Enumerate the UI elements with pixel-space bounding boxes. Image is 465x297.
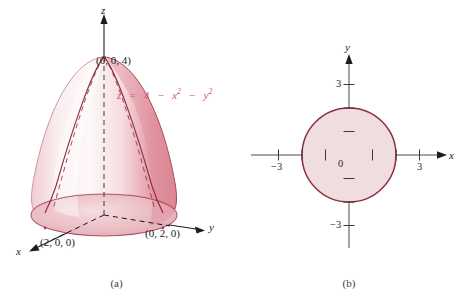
point-label-apex: (0, 0, 4) bbox=[96, 55, 131, 66]
point-label-y-intercept: (0, 2, 0) bbox=[145, 228, 180, 239]
origin-label: 0 bbox=[338, 159, 343, 170]
eq-minus-2: − bbox=[189, 89, 195, 101]
panel-b-circle: x y −3 3 3 −3 0 x2 + y2 = 4 (b) bbox=[233, 0, 465, 297]
eq-lhs: z bbox=[117, 89, 121, 101]
point-label-x-intercept: (2, 0, 0) bbox=[40, 237, 75, 248]
eq-exp-y: 2 bbox=[208, 87, 212, 96]
y-tick-label-neg3: −3 bbox=[330, 220, 341, 231]
axis-label-z: z bbox=[101, 5, 105, 16]
eq-minus-1: − bbox=[158, 89, 164, 101]
paraboloid-3d-graphic bbox=[0, 0, 233, 297]
eq-constant: 4 bbox=[144, 89, 150, 101]
panel-a-paraboloid: z y x (0, 0, 4) (2, 0, 0) (0, 2, 0) z = … bbox=[0, 0, 233, 297]
axis-label-y: y bbox=[209, 222, 214, 233]
eq-equals: = bbox=[130, 89, 136, 101]
figure-container: z y x (0, 0, 4) (2, 0, 0) (0, 2, 0) z = … bbox=[0, 0, 465, 297]
x-intercept-point bbox=[44, 227, 47, 230]
caption-panel-b: (b) bbox=[233, 277, 465, 289]
circle-region bbox=[302, 108, 396, 202]
axis-label-y: y bbox=[345, 42, 350, 53]
caption-panel-a: (a) bbox=[0, 277, 233, 289]
x-tick-label-pos3: 3 bbox=[417, 162, 422, 173]
axis-label-x: x bbox=[16, 246, 21, 257]
x-tick-label-neg3: −3 bbox=[271, 162, 282, 173]
surface-equation-label: z = 4 − x2 − y2 bbox=[117, 88, 212, 101]
y-tick-label-pos3: 3 bbox=[336, 79, 341, 90]
axis-label-x: x bbox=[449, 150, 454, 161]
eq-exp-x: 2 bbox=[177, 87, 181, 96]
